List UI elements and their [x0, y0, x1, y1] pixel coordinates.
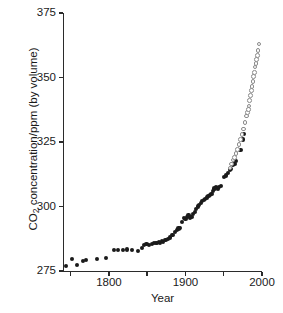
data-point [243, 120, 248, 125]
data-point [247, 98, 252, 103]
y-tick-300 [59, 206, 63, 207]
data-point [130, 248, 134, 252]
data-point [247, 104, 252, 109]
data-point [104, 256, 108, 260]
data-point [257, 42, 262, 47]
data-point [241, 127, 246, 132]
data-point [252, 70, 257, 75]
data-point [121, 248, 125, 252]
data-point [75, 263, 79, 267]
x-tick-label-1900: 1900 [163, 277, 207, 289]
x-minor-tick-1950 [223, 272, 224, 276]
data-point [238, 137, 243, 142]
data-point [70, 257, 74, 261]
data-point [125, 247, 129, 251]
y-tick-350 [59, 77, 63, 78]
y-tick-label-350: 350 [37, 72, 56, 84]
data-point [246, 107, 251, 112]
x-axis-line [63, 271, 262, 272]
y-axis-title: CO2 concentration/ppm (by volume) [27, 22, 39, 257]
y-tick-label-375: 375 [37, 7, 56, 19]
data-point [84, 258, 88, 262]
data-point [64, 264, 68, 268]
data-point [256, 48, 261, 53]
data-point [255, 53, 260, 58]
data-point [178, 226, 182, 230]
y-tick-325 [59, 141, 63, 142]
x-minor-tick-1750 [70, 272, 71, 276]
data-point [235, 147, 240, 152]
y-tick-label-325: 325 [37, 136, 56, 148]
x-tick-label-2000: 2000 [240, 277, 283, 289]
y-tick-275 [59, 270, 63, 271]
x-tick-label-1800: 1800 [87, 277, 131, 289]
data-point [240, 132, 245, 137]
data-point [219, 184, 223, 188]
y-tick-375 [59, 12, 63, 13]
co2-concentration-chart: 275300325350375 180019002000 CO2 concent… [0, 0, 283, 313]
y-axis-line [63, 13, 64, 272]
data-point [248, 93, 253, 98]
x-minor-tick-1850 [146, 272, 147, 276]
plot-area: 275300325350375 180019002000 CO2 concent… [0, 0, 283, 313]
data-point [250, 84, 255, 89]
data-point [229, 162, 234, 167]
data-point [251, 79, 256, 84]
data-point [95, 257, 99, 261]
data-point [116, 248, 120, 252]
data-point [237, 142, 242, 147]
x-axis-title: Year [63, 292, 262, 304]
y-tick-label-275: 275 [37, 265, 56, 277]
data-point [136, 249, 140, 253]
